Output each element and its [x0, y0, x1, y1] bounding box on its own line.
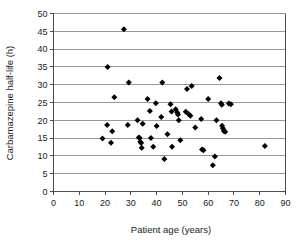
data-point — [158, 114, 164, 120]
chart-canvas: 0102030405060708090 05101520253035404550… — [0, 0, 299, 240]
data-point — [105, 64, 111, 70]
data-point — [108, 140, 114, 146]
scatter-chart: 0102030405060708090 05101520253035404550… — [0, 0, 299, 240]
x-tick-label-0: 0 — [51, 198, 56, 208]
data-point — [111, 94, 117, 100]
data-point — [205, 96, 211, 102]
data-point — [192, 124, 198, 130]
x-tick-label-80: 80 — [255, 198, 265, 208]
y-tick-label-10: 10 — [37, 151, 47, 161]
data-point — [139, 145, 145, 151]
x-tick-labels: 0102030405060708090 — [51, 198, 291, 208]
y-tick-label-20: 20 — [37, 116, 47, 126]
y-tick-label-30: 30 — [37, 80, 47, 90]
y-tick-label-0: 0 — [42, 187, 47, 197]
data-point — [176, 117, 182, 123]
data-point — [99, 135, 105, 141]
y-tick-label-35: 35 — [37, 62, 47, 72]
y-tick-marks — [50, 14, 54, 192]
data-point — [161, 156, 167, 162]
y-tick-label-5: 5 — [42, 169, 47, 179]
y-tick-label-15: 15 — [37, 133, 47, 143]
data-points — [99, 26, 267, 168]
y-tick-labels: 05101520253035404550 — [37, 9, 47, 197]
data-point — [109, 128, 115, 134]
data-point — [212, 154, 218, 160]
data-point — [140, 121, 146, 127]
data-point — [125, 122, 131, 128]
data-point — [217, 75, 223, 81]
data-point — [135, 117, 141, 123]
data-point — [104, 122, 110, 128]
data-point — [262, 143, 268, 149]
data-point — [169, 144, 175, 150]
y-tick-label-50: 50 — [37, 9, 47, 19]
x-tick-label-60: 60 — [203, 198, 213, 208]
data-point — [153, 100, 159, 106]
y-axis-title: Carbamazepine half-life (h) — [4, 46, 15, 161]
data-point — [189, 83, 195, 89]
data-point — [148, 135, 154, 141]
x-tick-label-20: 20 — [100, 198, 110, 208]
x-tick-label-90: 90 — [280, 198, 290, 208]
data-point — [147, 108, 153, 114]
data-point — [210, 162, 216, 168]
data-point — [198, 116, 204, 122]
y-tick-label-25: 25 — [37, 98, 47, 108]
x-tick-label-70: 70 — [229, 198, 239, 208]
y-tick-label-40: 40 — [37, 44, 47, 54]
data-point — [145, 96, 151, 102]
data-point — [150, 144, 156, 150]
x-tick-label-10: 10 — [74, 198, 84, 208]
x-tick-label-50: 50 — [177, 198, 187, 208]
data-point — [154, 123, 160, 129]
data-point — [213, 117, 219, 123]
data-point — [184, 86, 190, 92]
x-axis-title: Patient age (years) — [131, 224, 211, 235]
x-tick-label-30: 30 — [126, 198, 136, 208]
x-tick-marks — [54, 192, 286, 196]
x-tick-label-40: 40 — [152, 198, 162, 208]
data-point — [164, 131, 170, 137]
y-tick-label-45: 45 — [37, 27, 47, 37]
